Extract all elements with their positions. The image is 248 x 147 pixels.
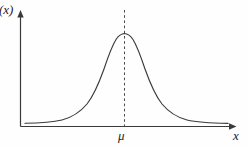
y-axis-arrowhead <box>17 10 23 18</box>
x-axis <box>21 123 237 129</box>
plot-area <box>0 0 248 147</box>
mean-tick-label: μ <box>118 129 125 142</box>
y-axis-label: (x) <box>0 3 13 16</box>
normal-distribution-figure: (x) x μ <box>0 0 248 147</box>
normal-density-curve <box>25 34 228 124</box>
x-axis-label: x <box>233 129 239 142</box>
y-axis <box>17 10 23 127</box>
